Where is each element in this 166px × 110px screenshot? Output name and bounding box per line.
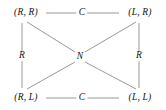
graph-diagram: (R, R) (L, R) (R, L) (L, L) N C C R R — [0, 0, 166, 110]
node-bottom-left: (R, L) — [14, 93, 37, 103]
edge-label-bottom: C — [76, 93, 87, 103]
edge-diagonal-top-left-center — [27, 22, 75, 52]
edge-label-top: C — [76, 8, 87, 18]
node-top-left: (R, R) — [14, 8, 38, 18]
edge-label-right: R — [134, 51, 145, 61]
edge-diagonal-top-right-center — [85, 22, 136, 52]
edge-diagonal-bottom-left-center — [27, 62, 75, 89]
node-center: N — [75, 52, 85, 62]
node-bottom-right: (L, L) — [129, 93, 152, 103]
node-top-right: (L, R) — [128, 8, 151, 18]
edge-diagonal-bottom-right-center — [85, 62, 136, 89]
edge-label-left: R — [17, 51, 28, 61]
